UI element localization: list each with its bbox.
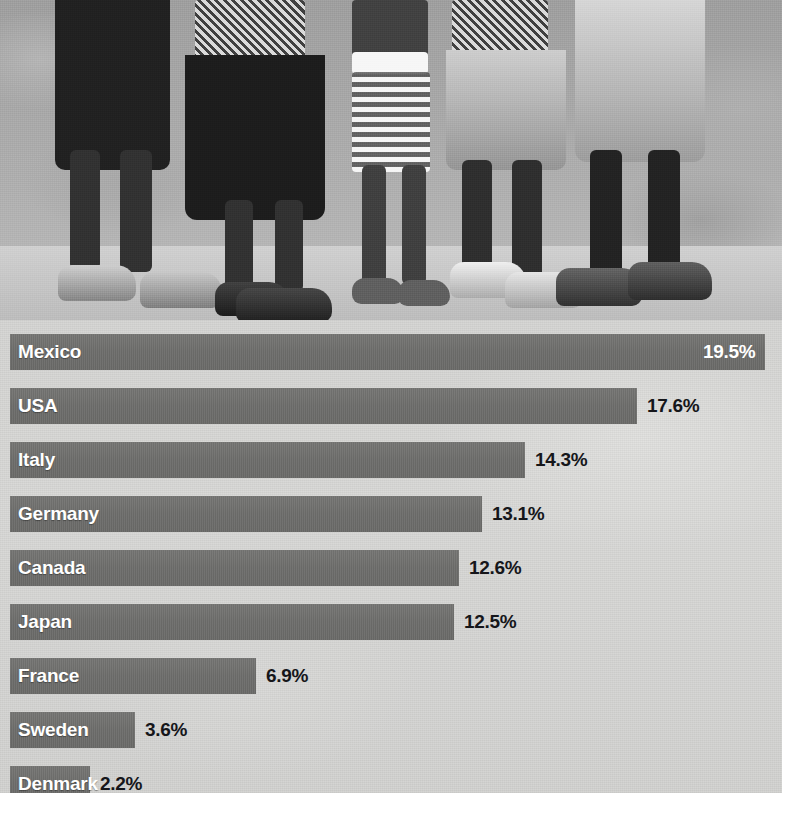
bar-value-label: 2.2% [100, 773, 142, 793]
bar-category-label: Sweden [18, 719, 89, 741]
photo-shorts-4 [446, 50, 566, 170]
photo-leg-3a [362, 165, 386, 285]
photo-shirt-3-band [352, 52, 428, 74]
photo-striped-shorts-3 [352, 72, 430, 172]
bar-category-label: Germany [18, 503, 99, 525]
photo-shoe-2b [236, 288, 332, 320]
bar-mexico[interactable] [10, 334, 765, 370]
bar-value-label: 6.9% [266, 665, 308, 687]
photo-leg-1a [70, 150, 100, 270]
photograph-children-feet [0, 0, 782, 320]
bar-value-label: 19.5% [703, 341, 755, 363]
photo-leg-2a [225, 200, 253, 290]
bar-category-label: USA [18, 395, 58, 417]
photo-shirt-3 [352, 0, 428, 56]
poster-root: Mexico 19.5% USA 17.6% Italy 14.3% Germa… [0, 0, 790, 820]
photo-shoe-1a [58, 265, 136, 301]
photo-leg-5a [590, 150, 622, 278]
bar-category-label: Japan [18, 611, 72, 633]
bar-value-label: 17.6% [647, 395, 699, 417]
photo-shoe-5b [628, 262, 712, 300]
bar-value-label: 12.5% [464, 611, 516, 633]
photo-skirt-2 [185, 55, 325, 220]
photo-bare-foot-3b [398, 280, 450, 306]
photo-leg-1b [120, 150, 152, 272]
bar-usa[interactable] [10, 388, 637, 424]
bar-italy[interactable] [10, 442, 525, 478]
bar-category-label: Mexico [18, 341, 81, 363]
photo-clothing-1 [55, 0, 170, 170]
photo-shorts-5 [575, 0, 705, 162]
bar-category-label: Italy [18, 449, 55, 471]
photo-clothing-2 [195, 0, 305, 62]
photo-leg-4b [512, 160, 542, 280]
bar-value-label: 14.3% [535, 449, 587, 471]
bar-category-label: France [18, 665, 79, 687]
bar-value-label: 3.6% [145, 719, 187, 741]
photo-leg-2b [275, 200, 303, 292]
photo-bare-foot-3a [352, 278, 404, 304]
bar-value-label: 13.1% [492, 503, 544, 525]
bar-value-label: 12.6% [469, 557, 521, 579]
photo-leg-3b [402, 165, 426, 285]
bar-chart: Mexico 19.5% USA 17.6% Italy 14.3% Germa… [0, 320, 782, 793]
photo-shoe-1b [140, 272, 222, 308]
bar-category-label: Denmark [18, 773, 98, 793]
bar-japan[interactable] [10, 604, 454, 640]
bar-category-label: Canada [18, 557, 85, 579]
photo-leg-5b [648, 150, 680, 278]
